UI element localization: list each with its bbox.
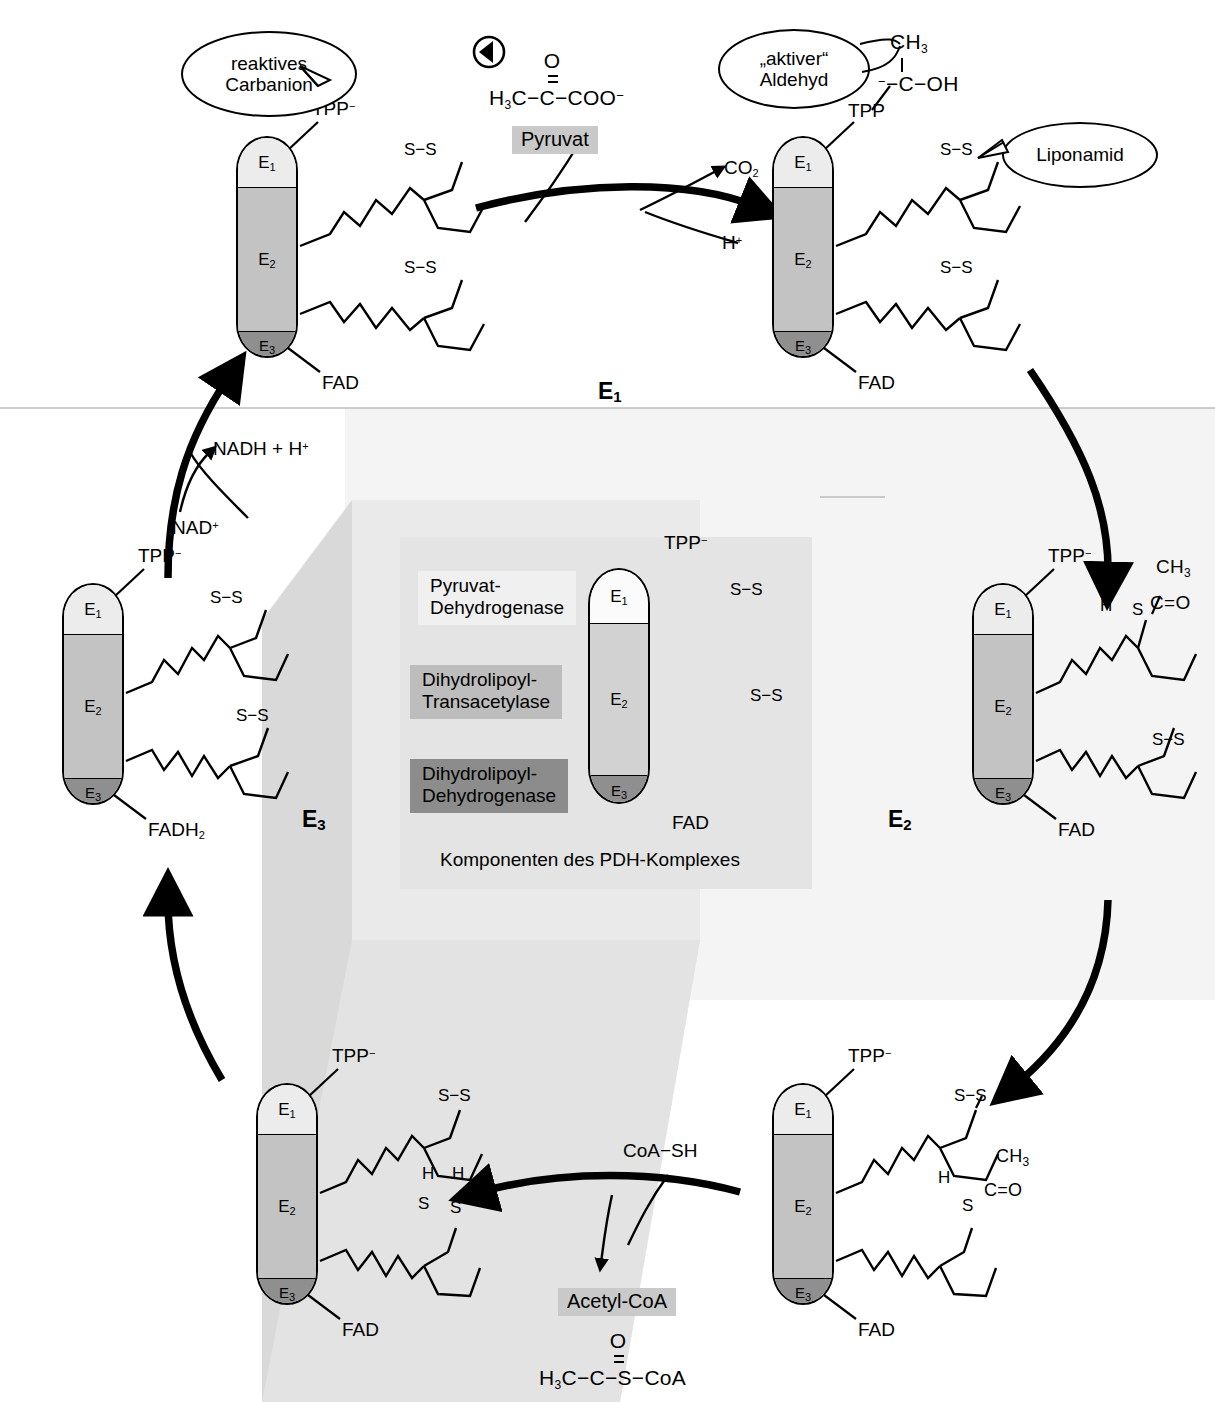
pdh-cycle-diagram: E1 E2 E3 TPP− FAD S−S S−S reaktives Carb… xyxy=(0,0,1215,1402)
acetylcoa-double-bond xyxy=(0,0,1215,1402)
acetylcoa-formula: H3C−C−S−CoA xyxy=(539,1366,686,1392)
